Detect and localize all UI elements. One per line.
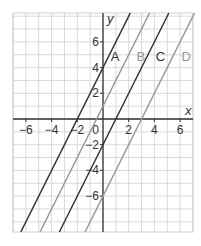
- line-graph: −6−4−22460642−2−4−6yx ABCD: [0, 0, 201, 246]
- y-tick-label: −6: [85, 189, 99, 203]
- x-axis-label: x: [184, 103, 192, 118]
- y-tick-label: 4: [92, 61, 99, 75]
- x-tick-label: 6: [177, 123, 184, 137]
- y-tick-label: 6: [92, 35, 99, 49]
- x-tick-label: −6: [19, 123, 33, 137]
- x-tick-label: −4: [45, 123, 59, 137]
- x-tick-label: 2: [125, 123, 132, 137]
- y-tick-label: −2: [85, 138, 99, 152]
- line-label-C: C: [156, 49, 165, 64]
- line-label-B: B: [136, 49, 145, 64]
- line-label-D: D: [181, 49, 190, 64]
- line-label-A: A: [111, 49, 120, 64]
- x-tick-label: 4: [151, 123, 158, 137]
